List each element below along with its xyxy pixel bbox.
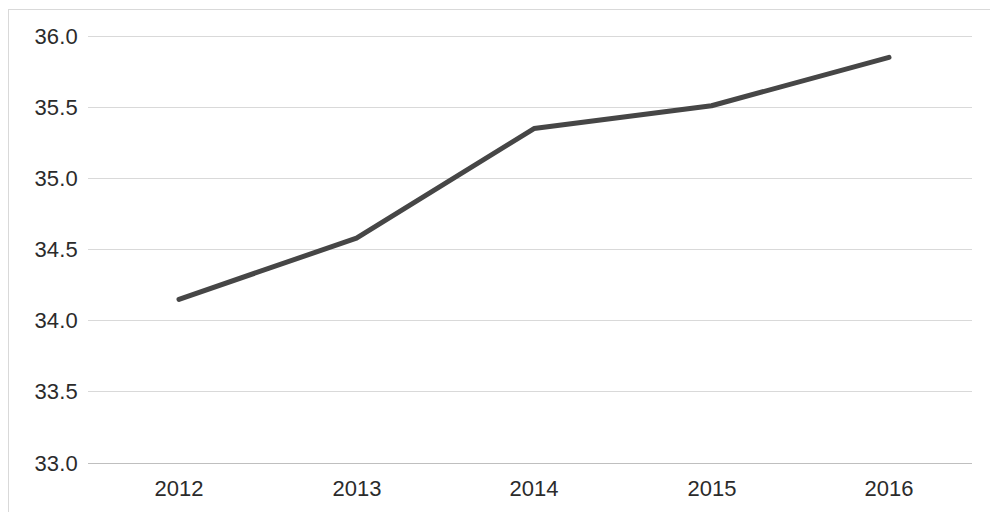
series-layer: [0, 0, 997, 516]
series-line: [179, 57, 889, 299]
line-chart: 36.0 35.5 35.0 34.5 34.0 33.5 33.0 2012 …: [0, 0, 997, 516]
